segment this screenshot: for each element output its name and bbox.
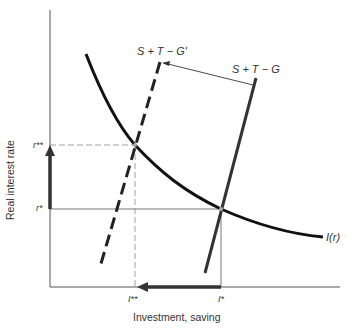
equilibrium-point-original: [219, 207, 223, 211]
r-star-label: r*: [36, 203, 43, 213]
investment-curve: [86, 54, 323, 237]
saving-shifted-label: S + T − G': [137, 45, 188, 57]
saving-investment-diagram: S + T − G' S + T − G I(r) r** r* I** I* …: [0, 0, 353, 330]
i-star-label: I*: [218, 294, 225, 304]
saving-curve-original: [205, 78, 256, 273]
interest-rise-arrowhead-icon: [45, 145, 55, 156]
r-double-star-label: r**: [33, 140, 43, 150]
i-double-star-label: I**: [128, 294, 138, 304]
equilibrium-point-new: [133, 143, 137, 147]
x-axis-label: Investment, saving: [133, 311, 221, 323]
saving-original-label: S + T − G: [232, 63, 280, 75]
saving-curve-shifted: [100, 62, 160, 267]
shift-arrowhead-icon: [162, 61, 170, 66]
y-axis-label: Real interest rate: [4, 140, 16, 220]
investment-fall-arrowhead-icon: [137, 282, 148, 292]
investment-curve-label: I(r): [326, 231, 340, 243]
